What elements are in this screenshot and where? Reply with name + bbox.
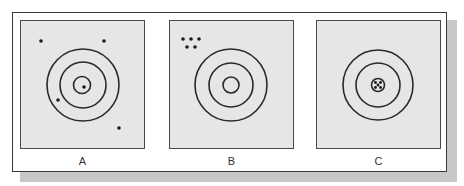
hit-dot: [82, 85, 86, 89]
panel-b-label: B: [169, 155, 294, 167]
target-b-outer-ring: [195, 49, 267, 121]
hit-dot: [102, 39, 106, 43]
target-a: [47, 49, 119, 121]
hit-dot: [379, 81, 382, 84]
hit-dot: [56, 98, 60, 102]
target-a-bullseye: [74, 77, 91, 94]
target-b-bullseye: [223, 77, 239, 93]
hit-dot: [379, 86, 382, 89]
hit-dot: [185, 45, 189, 49]
hit-dot: [39, 39, 43, 43]
hit-dot: [374, 86, 377, 89]
target-b: [195, 49, 267, 121]
hits-a: [39, 39, 121, 130]
hit-dot: [193, 45, 197, 49]
panel-c-label: C: [316, 155, 441, 167]
target-a-outer-ring: [47, 49, 119, 121]
target-b-middle-ring: [209, 63, 253, 107]
target-a-middle-ring: [60, 62, 106, 108]
hit-dot: [189, 37, 193, 41]
panel-a-label: A: [20, 155, 145, 167]
hit-dot: [197, 37, 201, 41]
hit-dot: [117, 126, 121, 130]
hits-b: [181, 37, 201, 49]
hits-c: [374, 81, 382, 89]
hit-dot: [374, 81, 377, 84]
hit-dot: [181, 37, 185, 41]
hit-dot: [377, 84, 380, 87]
